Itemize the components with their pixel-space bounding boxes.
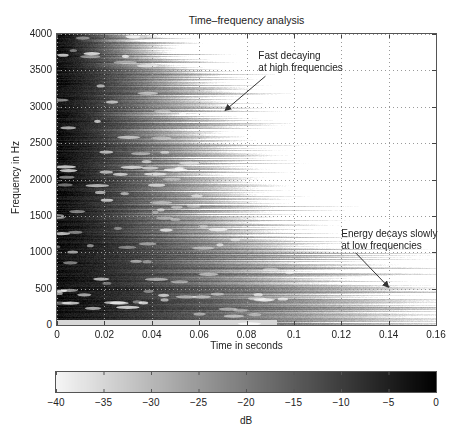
colorbar-tick-label: −5 — [369, 397, 409, 408]
colorbar-gradient — [56, 372, 436, 392]
y-tick-label: 1000 — [12, 246, 52, 257]
x-axis-label: Time in seconds — [56, 340, 437, 351]
y-tick-label: 3000 — [12, 101, 52, 112]
chart-title: Time–frequency analysis — [56, 14, 437, 26]
annotation-arrow — [225, 76, 265, 110]
annotation-line: at high frequencies — [258, 62, 343, 74]
colorbar-tick-label: −35 — [84, 397, 124, 408]
x-tick-label: 0.16 — [416, 329, 456, 340]
x-tick-label: 0.1 — [274, 329, 314, 340]
spectrogram-plot-area — [56, 33, 437, 326]
x-tick-label: 0.06 — [179, 329, 219, 340]
y-axis-label: Frequency in Hz — [10, 123, 21, 233]
colorbar-tick-label: 0 — [416, 397, 456, 408]
x-tick-label: 0.12 — [321, 329, 361, 340]
x-tick-label: 0.04 — [132, 329, 172, 340]
y-tick-label: 3500 — [12, 64, 52, 75]
annotation-line: Energy decays slowly — [341, 228, 437, 240]
x-tick-label: 0 — [37, 329, 77, 340]
colorbar-tick-label: −20 — [226, 397, 266, 408]
colorbar-tick-label: −40 — [36, 397, 76, 408]
colorbar-tick-label: −10 — [321, 397, 361, 408]
annotation-line: at low frequencies — [341, 240, 437, 252]
annotation-arrow — [355, 253, 388, 288]
colorbar — [55, 371, 437, 393]
x-tick-label: 0.14 — [369, 329, 409, 340]
annotation-line: Fast decaying — [258, 50, 343, 62]
colorbar-tick-label: −25 — [179, 397, 219, 408]
x-tick-label: 0.02 — [84, 329, 124, 340]
x-tick-label: 0.08 — [227, 329, 267, 340]
colorbar-label: dB — [55, 415, 437, 426]
annotation-text: Fast decayingat high frequencies — [258, 50, 343, 74]
y-tick-label: 4000 — [12, 28, 52, 39]
colorbar-tick-label: −15 — [274, 397, 314, 408]
y-tick-label: 500 — [12, 283, 52, 294]
colorbar-tick-label: −30 — [131, 397, 171, 408]
annotation-text: Energy decays slowlyat low frequencies — [341, 228, 437, 252]
grid-and-annotations-overlay — [57, 34, 436, 325]
